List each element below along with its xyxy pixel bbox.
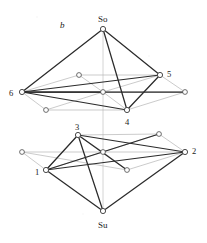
label-su: Su bbox=[98, 221, 108, 230]
faint-edge bbox=[103, 92, 127, 110]
faint-edge bbox=[22, 92, 46, 110]
node-ua bbox=[77, 73, 82, 78]
label-4: 4 bbox=[125, 118, 129, 127]
faint-edge bbox=[78, 134, 159, 135]
node-su bbox=[100, 208, 105, 213]
strong-edge-group bbox=[22, 29, 185, 211]
node-group bbox=[19, 26, 187, 213]
faint-edge bbox=[22, 152, 46, 170]
label-3: 3 bbox=[75, 123, 79, 132]
crystal-structure-diagram bbox=[0, 0, 207, 243]
faint-edge bbox=[159, 134, 185, 152]
node-la bbox=[157, 132, 162, 137]
strong-edge bbox=[22, 75, 160, 92]
strong-edge bbox=[22, 29, 103, 92]
strong-edge bbox=[103, 29, 160, 75]
label-so: So bbox=[98, 15, 108, 24]
strong-edge bbox=[78, 135, 185, 152]
strong-edge bbox=[22, 92, 127, 110]
node-lm bbox=[101, 150, 106, 155]
node-6 bbox=[19, 89, 24, 94]
node-lb bbox=[20, 150, 25, 155]
node-um bbox=[101, 90, 106, 95]
node-uc bbox=[44, 108, 49, 113]
node-lc bbox=[125, 168, 130, 173]
strong-edge bbox=[46, 170, 103, 211]
node-ub bbox=[183, 90, 188, 95]
strong-edge bbox=[78, 135, 103, 211]
faint-edge bbox=[127, 152, 185, 170]
label-2: 2 bbox=[192, 147, 196, 156]
node-5 bbox=[157, 72, 162, 77]
faint-edge bbox=[160, 75, 185, 92]
node-4 bbox=[124, 107, 129, 112]
node-2 bbox=[182, 149, 187, 154]
node-3 bbox=[75, 132, 80, 137]
strong-edge bbox=[103, 29, 127, 110]
node-1 bbox=[43, 167, 48, 172]
node-so bbox=[100, 26, 105, 31]
label-6: 6 bbox=[9, 89, 13, 98]
faint-edge bbox=[22, 75, 79, 92]
panel-label: b bbox=[60, 21, 65, 30]
label-1: 1 bbox=[35, 168, 39, 177]
label-5: 5 bbox=[167, 70, 171, 79]
